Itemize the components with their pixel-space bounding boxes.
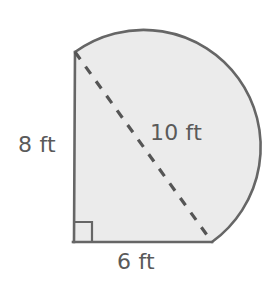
geometry-figure: 8 ft 10 ft 6 ft [0,0,277,290]
dimension-label-base: 6 ft [117,251,155,273]
dimension-label-height: 8 ft [18,134,56,156]
vertical-leg-line [74,52,75,242]
dimension-label-hypotenuse: 10 ft [150,122,202,144]
